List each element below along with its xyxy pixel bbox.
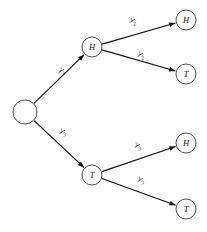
probability-tree-diagram: HTHTHT 231312122313	[0, 0, 207, 232]
fraction-denominator-t1-th: 3	[138, 145, 142, 151]
tree-edge-root-h1	[34, 55, 84, 104]
fraction-denominator-root-t1: 3	[63, 131, 67, 137]
tree-node-h1[interactable]: H	[82, 37, 102, 57]
tree-node-th[interactable]: H	[176, 133, 196, 153]
edge-probability-h1-hh: 12	[129, 15, 137, 27]
fraction-denominator-t1-tt: 3	[141, 179, 145, 185]
tree-node-t1[interactable]: T	[82, 165, 102, 185]
edge-probability-t1-tt: 13	[137, 174, 145, 186]
tree-edge-t1-tt	[102, 179, 176, 206]
fraction-denominator-h1-hh: 2	[133, 20, 137, 26]
tree-canvas: HTHTHT 231312122313	[0, 0, 207, 232]
arrowhead-h1-ht	[169, 67, 176, 71]
edges-layer	[34, 23, 176, 205]
node-circle-root	[13, 100, 37, 124]
tree-node-hh[interactable]: H	[176, 10, 196, 30]
edge-probability-h1-ht: 12	[137, 49, 145, 61]
edge-probability-labels-layer: 231312122313	[58, 15, 145, 186]
edge-probability-root-t1: 13	[59, 126, 67, 138]
fraction-denominator-h1-ht: 2	[141, 54, 145, 60]
node-label-h1: H	[88, 42, 96, 52]
node-label-th: H	[182, 138, 190, 148]
edge-probability-root-h1: 23	[58, 65, 66, 77]
tree-node-root[interactable]	[13, 100, 37, 124]
tree-node-tt[interactable]: T	[176, 199, 196, 219]
arrowhead-t1-tt	[169, 201, 176, 205]
tree-edge-h1-hh	[102, 23, 175, 44]
node-label-hh: H	[182, 15, 190, 25]
arrowhead-h1-hh	[169, 23, 176, 27]
tree-node-ht[interactable]: T	[176, 64, 196, 84]
arrowhead-t1-th	[169, 146, 176, 150]
edge-probability-t1-th: 23	[134, 140, 142, 152]
nodes-layer: HTHTHT	[13, 10, 196, 219]
